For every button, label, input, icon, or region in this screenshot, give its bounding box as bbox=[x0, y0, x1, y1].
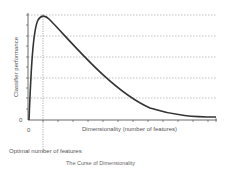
performance-curve bbox=[29, 16, 216, 120]
optimal-annotation: Optimal number of features bbox=[9, 148, 82, 154]
x-axis-label: Dimensionality (number of features) bbox=[82, 126, 177, 132]
y-zero-label: 0 bbox=[19, 117, 22, 123]
x-zero-label: 0 bbox=[27, 127, 30, 133]
y-axis-label: Classifier performance bbox=[13, 37, 19, 97]
chart-title: The Curse of Dimensionality bbox=[66, 161, 135, 167]
